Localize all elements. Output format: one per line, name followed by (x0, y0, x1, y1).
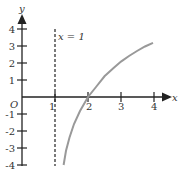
svg-text:-3: -3 (5, 143, 15, 154)
y-tick-labels: 4 3 2 1 -1 -2 -3 -4 (5, 24, 15, 171)
y-axis-label: y (18, 3, 25, 14)
svg-text:-1: -1 (5, 109, 15, 120)
curve (64, 43, 153, 165)
svg-text:-2: -2 (5, 126, 15, 137)
svg-text:1: 1 (9, 75, 15, 86)
svg-text:2: 2 (9, 58, 15, 69)
y-axis-arrow-icon (18, 14, 27, 24)
svg-text:-4: -4 (5, 160, 15, 171)
x-tick-labels: 1 2 3 4 (49, 101, 157, 112)
svg-text:3: 3 (9, 41, 15, 52)
svg-text:4: 4 (151, 101, 157, 112)
x-axis-label: x (172, 92, 178, 103)
asymptote-label: x = 1 (58, 31, 85, 42)
svg-text:3: 3 (118, 101, 124, 112)
x-axis-arrow-icon (162, 93, 172, 102)
svg-text:4: 4 (9, 24, 15, 35)
graph: y x O x = 1 1 2 3 4 4 3 2 1 -1 -2 -3 -4 (0, 0, 180, 176)
svg-text:2: 2 (86, 101, 92, 112)
svg-text:1: 1 (49, 101, 55, 112)
